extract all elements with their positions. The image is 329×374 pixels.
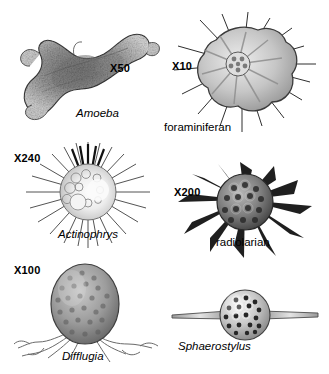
- specimen-radiolarian: X200 radiolarian: [170, 160, 320, 260]
- specimen-name-foraminiferan: foraminiferan: [164, 121, 231, 133]
- magnification-label-radiolarian: X200: [174, 186, 201, 198]
- specimen-difflugia: X100 Difflugia: [10, 258, 165, 370]
- magnification-label-amoeba: X50: [110, 62, 130, 74]
- sphaerostylus-illustration: [166, 282, 324, 368]
- specimen-actinophrys: X240 Actinophrys: [10, 140, 165, 250]
- specimen-name-radiolarian: radiolarian: [216, 236, 270, 248]
- specimen-name-actinophrys: Actinophrys: [58, 228, 118, 240]
- specimen-amoeba: X50 Amoeba: [14, 14, 164, 124]
- specimen-foraminiferan: X10 foraminiferan: [164, 6, 324, 141]
- illustration-plate: X50 Amoeba: [0, 0, 329, 374]
- specimen-name-difflugia: Difflugia: [62, 350, 104, 362]
- magnification-label-foraminiferan: X10: [172, 60, 192, 72]
- specimen-sphaerostylus: Sphaerostylus: [166, 282, 324, 368]
- specimen-name-amoeba: Amoeba: [76, 107, 119, 119]
- magnification-label-actinophrys: X240: [14, 152, 41, 164]
- specimen-name-sphaerostylus: Sphaerostylus: [178, 340, 251, 352]
- magnification-label-difflugia: X100: [14, 264, 41, 276]
